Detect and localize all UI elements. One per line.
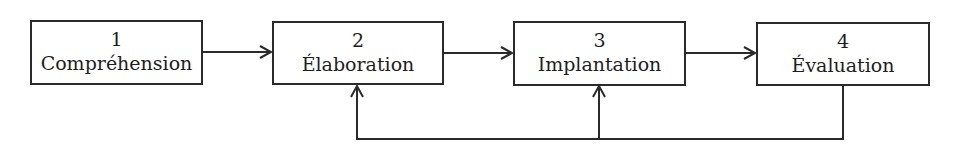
step-box-implantation: 3 Implantation <box>513 21 686 86</box>
step-box-evaluation: 4 Évaluation <box>756 22 930 86</box>
step-box-elaboration: 2 Élaboration <box>272 21 444 85</box>
step-label: Évaluation <box>758 52 928 78</box>
step-label: Compréhension <box>32 50 201 76</box>
step-number: 4 <box>758 30 928 52</box>
step-number: 1 <box>32 28 201 50</box>
step-number: 3 <box>515 29 684 51</box>
step-label: Élaboration <box>274 51 442 77</box>
step-number: 2 <box>274 29 442 51</box>
step-label: Implantation <box>515 51 684 77</box>
step-box-comprehension: 1 Compréhension <box>30 20 203 85</box>
